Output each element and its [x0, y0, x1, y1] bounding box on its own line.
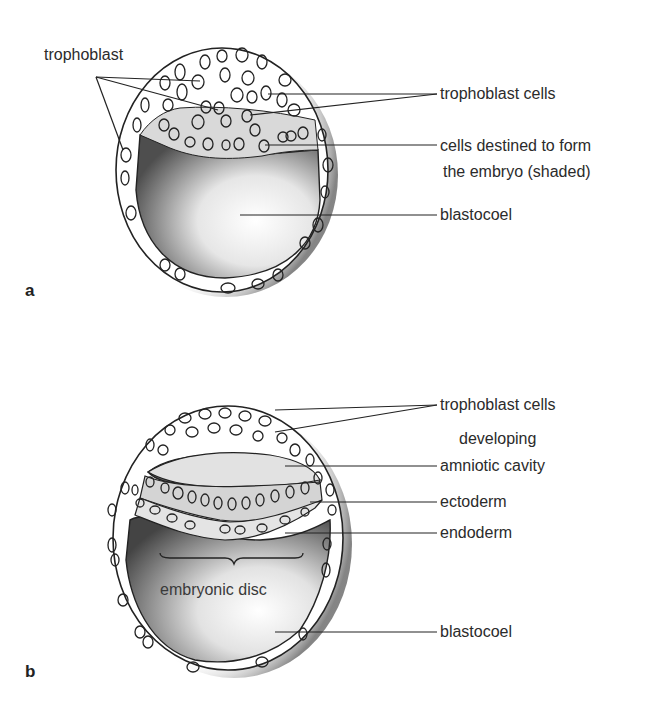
label-embryonic-disc: embryonic disc: [160, 581, 267, 599]
label-embryo-cells-line2: the embryo (shaded): [443, 163, 591, 181]
label-trophoblast-cells-b: trophoblast cells: [440, 396, 556, 414]
label-embryo-cells-line1: cells destined to form: [440, 137, 591, 155]
label-trophoblast: trophoblast: [44, 46, 123, 64]
blastocyst-diagram: [0, 0, 669, 710]
label-endoderm: endoderm: [440, 524, 512, 542]
label-trophoblast-cells-a: trophoblast cells: [440, 85, 556, 103]
panel-a-blastocyst: [96, 48, 437, 297]
panel-letter-b: b: [25, 662, 35, 682]
label-blastocoel-b: blastocoel: [440, 623, 512, 641]
panel-letter-a: a: [25, 281, 34, 301]
label-blastocoel-a: blastocoel: [440, 206, 512, 224]
label-developing: developing: [459, 430, 536, 448]
panel-b-blastocyst: [108, 405, 437, 678]
label-amniotic-cavity: amniotic cavity: [440, 457, 545, 475]
label-ectoderm: ectoderm: [440, 493, 507, 511]
